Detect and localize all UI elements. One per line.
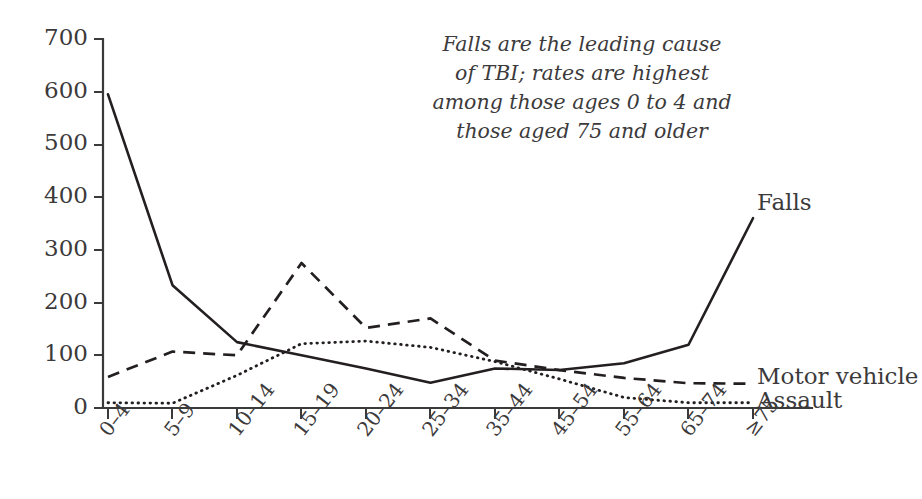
series-line-motor-vehicle [108, 263, 753, 384]
y-tick-label: 300 [18, 235, 88, 261]
y-tick-label: 500 [18, 129, 88, 155]
annotation-falls-callout: Falls are the leading causeof TBI; rates… [432, 30, 732, 146]
annotation-line: Falls are the leading cause [432, 30, 732, 59]
y-tick-label: 200 [18, 288, 88, 314]
annotation-line: among those ages 0 to 4 and [432, 88, 732, 117]
tbi-rates-line-chart: 0100200300400500600700 0–45–910–1415–192… [0, 0, 922, 499]
y-tick-label: 400 [18, 182, 88, 208]
annotation-line: those aged 75 and older [432, 117, 732, 146]
series-label-falls: Falls [757, 189, 812, 215]
series-label-assault: Assault [757, 387, 842, 413]
y-tick-label: 700 [18, 24, 88, 50]
annotation-line: of TBI; rates are highest [432, 59, 732, 88]
y-tick-marks [94, 39, 103, 408]
y-tick-label: 600 [18, 77, 88, 103]
y-tick-label: 0 [18, 393, 88, 419]
y-tick-label: 100 [18, 340, 88, 366]
series-label-motor-vehicle: Motor vehicle [757, 363, 918, 389]
